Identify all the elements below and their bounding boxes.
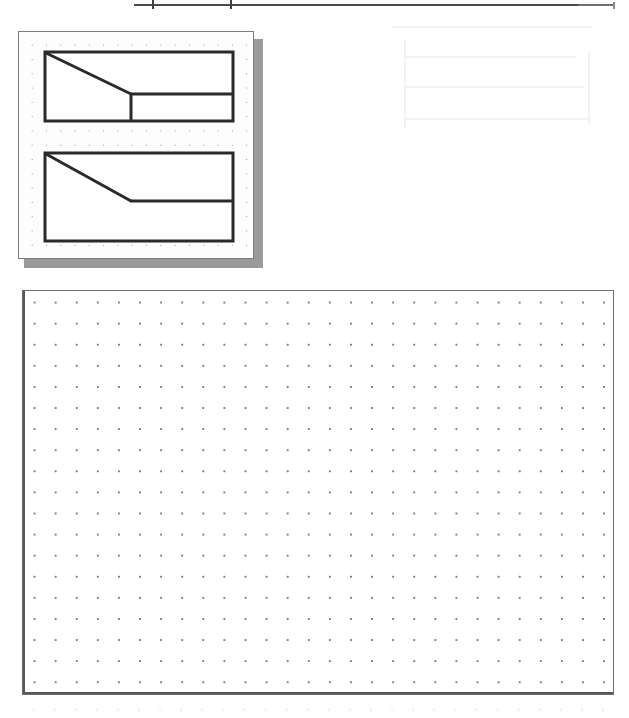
canvas-scan-bleed: [22, 696, 614, 712]
main-canvas-bottom-edge: [23, 692, 613, 694]
top-ruler-line-extension: [578, 4, 615, 6]
main-canvas-dot-grid: [23, 291, 613, 694]
top-ruler-line: [134, 4, 578, 6]
drawing-window-shapes[interactable]: [19, 32, 254, 259]
main-drawing-canvas[interactable]: [22, 290, 614, 695]
lower-shape-outline: [45, 153, 233, 241]
drawing-window[interactable]: [18, 31, 254, 259]
ruler-tick-mark: [152, 0, 154, 9]
ruler-end-cap: [613, 2, 615, 9]
lower-shape[interactable]: [45, 153, 233, 241]
upper-shape[interactable]: [45, 52, 233, 121]
scan-ghost-artifact: [388, 22, 620, 130]
ruler-tick-mark: [230, 0, 232, 9]
upper-shape-outline: [45, 52, 233, 121]
main-canvas-left-edge: [23, 291, 25, 694]
